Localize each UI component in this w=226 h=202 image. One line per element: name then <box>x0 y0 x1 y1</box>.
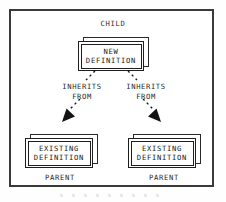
inheritance-diagram: CHILD NEW DEFINITION INHERITS FROM INHER… <box>0 0 226 202</box>
edge-left-label-line2: FROM <box>54 92 110 102</box>
node-existing-definition-right-line1: EXISTING <box>142 144 182 154</box>
node-new-definition-line2: DEFINITION <box>86 56 136 66</box>
edge-right-label: INHERITS FROM <box>118 82 174 102</box>
node-existing-definition-right-line2: DEFINITION <box>137 153 187 163</box>
node-existing-definition-left-line1: EXISTING <box>39 144 79 154</box>
node-existing-definition-left-inner: EXISTING DEFINITION <box>28 141 91 166</box>
node-existing-definition-right: EXISTING DEFINITION <box>128 134 196 164</box>
node-new-definition: NEW DEFINITION <box>78 37 144 67</box>
edge-right-label-line1: INHERITS <box>118 82 174 92</box>
edge-left-label: INHERITS FROM <box>54 82 110 102</box>
node-existing-definition-right-inner: EXISTING DEFINITION <box>131 141 194 166</box>
parent-left-label: PARENT <box>14 173 106 182</box>
node-existing-definition-left: EXISTING DEFINITION <box>25 134 93 164</box>
node-new-definition-frontplate: NEW DEFINITION <box>78 41 144 71</box>
parent-right-label: PARENT <box>118 173 210 182</box>
scan-artifact <box>60 194 160 197</box>
child-label: CHILD <box>0 19 226 28</box>
node-new-definition-line1: NEW <box>103 47 118 57</box>
node-existing-definition-left-frontplate: EXISTING DEFINITION <box>25 138 93 168</box>
node-new-definition-inner: NEW DEFINITION <box>81 44 142 69</box>
node-existing-definition-left-line2: DEFINITION <box>34 153 84 163</box>
node-existing-definition-right-frontplate: EXISTING DEFINITION <box>128 138 196 168</box>
edge-left-label-line1: INHERITS <box>54 82 110 92</box>
edge-right-label-line2: FROM <box>118 92 174 102</box>
